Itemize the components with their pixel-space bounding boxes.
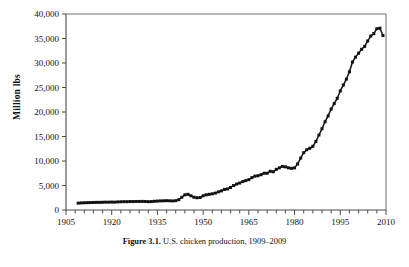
data-point-marker [296, 162, 299, 165]
y-tick-label: 40,000 [34, 9, 59, 19]
data-point-marker [366, 39, 369, 42]
data-point-marker [263, 172, 266, 175]
data-point-marker [311, 145, 314, 148]
data-point-marker [321, 127, 324, 130]
data-point-marker [232, 184, 235, 187]
data-point-marker [317, 134, 320, 137]
figure-container: 05,00010,00015,00020,00025,00030,00035,0… [0, 0, 409, 267]
data-point-marker [305, 148, 308, 151]
data-point-marker [378, 27, 381, 30]
data-point-marker [196, 196, 199, 199]
data-point-marker [314, 140, 317, 143]
data-point-marker [235, 183, 238, 186]
data-point-marker [208, 193, 211, 196]
data-point-marker [135, 200, 138, 203]
data-point-marker [345, 78, 348, 81]
data-point-marker [287, 166, 290, 169]
figure-caption-label: Figure 3.1. [123, 237, 161, 246]
data-point-marker [86, 201, 89, 204]
data-point-marker [327, 114, 330, 117]
data-point-marker [336, 97, 339, 100]
data-point-marker [302, 151, 305, 154]
series-markers-us-chicken-production [77, 27, 385, 205]
data-point-marker [104, 201, 107, 204]
y-tick-label: 25,000 [34, 83, 59, 93]
data-point-marker [333, 102, 336, 105]
data-point-marker [138, 200, 141, 203]
data-point-marker [144, 200, 147, 203]
data-point-marker [357, 52, 360, 55]
data-point-marker [290, 167, 293, 170]
data-point-marker [159, 199, 162, 202]
data-point-marker [223, 188, 226, 191]
data-point-marker [272, 170, 275, 173]
data-point-marker [214, 192, 217, 195]
y-axis-title: Million lbs [12, 54, 22, 140]
series-polyline [78, 28, 383, 203]
x-tick-label: 1920 [103, 217, 122, 227]
series-line-us-chicken-production [78, 28, 383, 203]
data-point-marker [360, 48, 363, 51]
data-point-marker [348, 70, 351, 73]
data-point-marker [141, 200, 144, 203]
data-point-marker [220, 189, 223, 192]
data-point-marker [171, 199, 174, 202]
data-point-marker [162, 199, 165, 202]
data-point-marker [275, 168, 278, 171]
x-tick-label: 2010 [377, 217, 396, 227]
data-point-marker [150, 200, 153, 203]
data-point-marker [293, 166, 296, 169]
data-point-marker [119, 200, 122, 203]
data-point-marker [132, 200, 135, 203]
data-point-marker [257, 174, 260, 177]
data-point-marker [281, 165, 284, 168]
chicken-production-line-chart: 05,00010,00015,00020,00025,00030,00035,0… [0, 0, 409, 230]
x-tick-label: 1965 [240, 217, 259, 227]
y-tick-label: 5,000 [39, 181, 60, 191]
x-tick-label: 1905 [57, 217, 76, 227]
data-point-marker [308, 147, 311, 150]
data-point-marker [147, 200, 150, 203]
data-point-marker [369, 35, 372, 38]
data-point-marker [193, 196, 196, 199]
data-point-marker [342, 84, 345, 87]
data-point-marker [83, 201, 86, 204]
data-point-marker [98, 201, 101, 204]
data-point-marker [229, 186, 232, 189]
chart-plot-area: 05,00010,00015,00020,00025,00030,00035,0… [0, 0, 409, 230]
data-point-marker [241, 180, 244, 183]
data-point-marker [354, 56, 357, 59]
data-point-marker [238, 182, 241, 185]
data-point-marker [351, 61, 354, 64]
data-point-marker [168, 199, 171, 202]
data-point-marker [174, 199, 177, 202]
data-point-marker [110, 201, 113, 204]
data-point-marker [269, 170, 272, 173]
y-tick-label: 0 [55, 205, 60, 215]
data-point-marker [183, 193, 186, 196]
data-point-marker [153, 200, 156, 203]
data-point-marker [363, 45, 366, 48]
data-point-marker [202, 194, 205, 197]
data-point-marker [199, 196, 202, 199]
y-tick-label: 15,000 [34, 132, 59, 142]
data-point-marker [266, 172, 269, 175]
data-point-marker [77, 202, 80, 205]
y-tick-label: 10,000 [34, 156, 59, 166]
figure-caption: Figure 3.1. U.S. chicken production, 190… [0, 236, 409, 248]
data-point-marker [381, 34, 384, 37]
data-point-marker [101, 201, 104, 204]
data-point-marker [299, 157, 302, 160]
x-tick-label: 1995 [331, 217, 350, 227]
data-point-marker [217, 190, 220, 193]
data-point-marker [165, 199, 168, 202]
data-point-marker [284, 165, 287, 168]
data-point-marker [250, 176, 253, 179]
axis-frame [66, 14, 386, 210]
x-tick-label: 1950 [194, 217, 213, 227]
data-point-marker [125, 200, 128, 203]
data-point-marker [211, 192, 214, 195]
data-point-marker [89, 201, 92, 204]
data-point-marker [330, 108, 333, 111]
y-tick-label: 35,000 [34, 34, 59, 44]
